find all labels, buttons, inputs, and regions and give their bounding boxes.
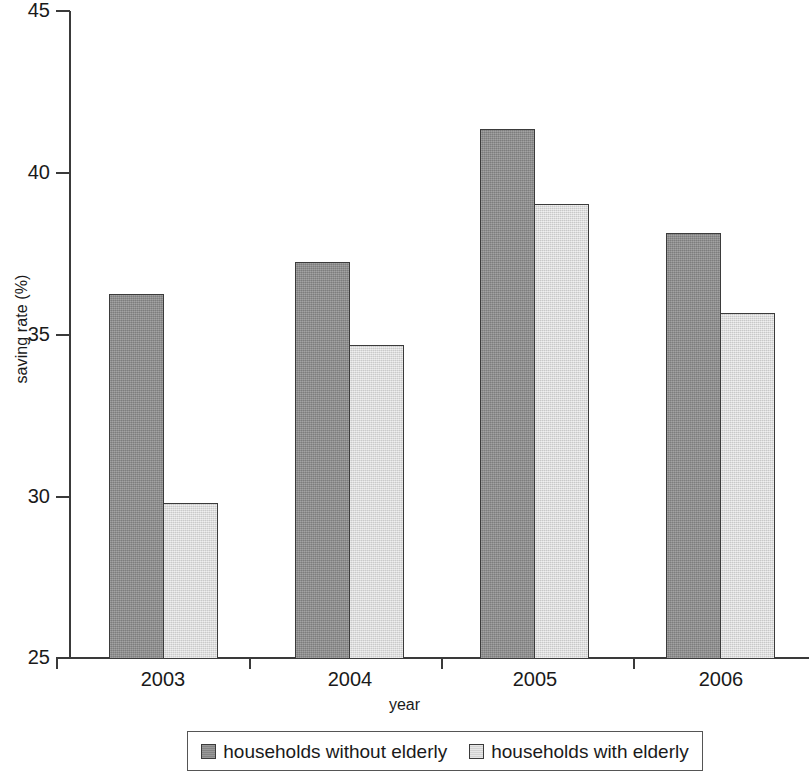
x-axis-tick-left-edge bbox=[56, 657, 58, 669]
y-axis-tick-label-40: 40 bbox=[4, 162, 50, 182]
x-axis-tick-2 bbox=[441, 657, 443, 669]
y-axis-tick-label-35: 35 bbox=[4, 324, 50, 344]
x-axis-tick-3 bbox=[633, 657, 635, 669]
legend-entry-with-elderly: households with elderly bbox=[469, 742, 689, 761]
legend-entry-without-elderly: households without elderly bbox=[201, 742, 447, 761]
bar-2003-with-elderly bbox=[163, 503, 218, 659]
bar-2006-with-elderly bbox=[720, 313, 775, 659]
bar-2003-without-elderly bbox=[109, 294, 164, 659]
bar-2005-without-elderly bbox=[480, 129, 535, 659]
y-axis-tick-label-25: 25 bbox=[4, 647, 50, 667]
bar-2004-without-elderly bbox=[295, 262, 350, 659]
y-axis-tick-label-30: 30 bbox=[4, 486, 50, 506]
y-axis-tick-40 bbox=[56, 172, 70, 174]
bar-2005-with-elderly bbox=[534, 204, 589, 659]
chart-legend: households without elderly households wi… bbox=[187, 731, 703, 771]
legend-label-without-elderly: households without elderly bbox=[223, 742, 447, 761]
x-axis-tick-label-2005: 2005 bbox=[475, 668, 595, 691]
y-axis-tick-label-45: 45 bbox=[4, 0, 50, 20]
x-axis-title: year bbox=[0, 696, 809, 714]
x-axis-tick-label-2004: 2004 bbox=[290, 668, 410, 691]
y-axis-tick-35 bbox=[56, 334, 70, 336]
bar-2006-without-elderly bbox=[666, 233, 721, 659]
y-axis-tick-45 bbox=[56, 10, 70, 12]
x-axis-tick-label-2003: 2003 bbox=[103, 668, 223, 691]
legend-swatch-dark-gray-icon bbox=[201, 744, 216, 759]
x-axis-tick-1 bbox=[249, 657, 251, 669]
legend-label-with-elderly: households with elderly bbox=[491, 742, 689, 761]
x-axis-tick-label-2006: 2006 bbox=[661, 668, 781, 691]
legend-swatch-light-gray-icon bbox=[469, 744, 484, 759]
bar-2004-with-elderly bbox=[349, 345, 404, 659]
y-axis-tick-30 bbox=[56, 496, 70, 498]
